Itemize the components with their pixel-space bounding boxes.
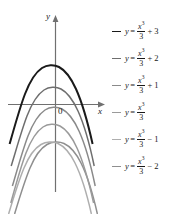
legend-item[interactable]: y = x3 3 + 1 bbox=[112, 72, 196, 99]
numerator-exponent: 3 bbox=[142, 20, 145, 26]
fraction: x3 3 bbox=[137, 77, 145, 95]
origin-label: 0 bbox=[58, 107, 63, 116]
cubic-family-figure: y x 0 y = x3 3 + 3 y = x3 bbox=[0, 0, 196, 214]
legend-constant-term: + 2 bbox=[147, 54, 158, 63]
legend-equals-sign: = bbox=[130, 162, 135, 171]
fraction-numerator: x3 bbox=[137, 158, 145, 167]
legend-equals-sign: = bbox=[130, 108, 135, 117]
curve-c-1 bbox=[12, 107, 95, 186]
legend-equation: y = x3 3 + 3 bbox=[125, 23, 159, 41]
fraction: x3 3 bbox=[137, 23, 145, 41]
fraction-denominator: 3 bbox=[138, 86, 144, 95]
legend-item[interactable]: y = x3 3 − 1 bbox=[112, 126, 196, 153]
legend-equals-sign: = bbox=[130, 27, 135, 36]
fraction: x3 3 bbox=[137, 131, 145, 149]
fraction: x3 3 bbox=[137, 104, 145, 122]
legend-dash-icon bbox=[112, 58, 121, 59]
fraction-numerator: x3 bbox=[137, 50, 145, 59]
legend-equals-sign: = bbox=[130, 135, 135, 144]
numerator-exponent: 3 bbox=[142, 128, 145, 134]
legend-dash-icon bbox=[112, 166, 121, 167]
legend-y-symbol: y bbox=[125, 135, 129, 144]
legend-y-symbol: y bbox=[125, 81, 129, 90]
plot-area: y x 0 bbox=[0, 0, 112, 214]
x-axis-label: x bbox=[98, 107, 102, 116]
legend-constant-term: − 2 bbox=[147, 162, 158, 171]
legend-item[interactable]: y = x3 3 + 3 bbox=[112, 18, 196, 45]
legend-equals-sign: = bbox=[130, 81, 135, 90]
legend-dash-icon bbox=[112, 112, 121, 113]
legend-item[interactable]: y = x3 3 bbox=[112, 99, 196, 126]
legend-item[interactable]: y = x3 3 − 2 bbox=[112, 153, 196, 180]
legend-y-symbol: y bbox=[125, 108, 129, 117]
legend-dash-icon bbox=[112, 85, 121, 86]
legend-dash-icon bbox=[112, 139, 121, 140]
fraction: x3 3 bbox=[137, 50, 145, 68]
fraction-numerator: x3 bbox=[137, 131, 145, 140]
fraction-denominator: 3 bbox=[138, 113, 144, 122]
numerator-exponent: 3 bbox=[142, 47, 145, 53]
legend-equation: y = x3 3 + 1 bbox=[125, 77, 159, 95]
fraction: x3 3 bbox=[137, 158, 145, 176]
y-axis-label: y bbox=[46, 12, 50, 21]
fraction-denominator: 3 bbox=[138, 167, 144, 176]
y-axis bbox=[53, 15, 59, 192]
legend-equation: y = x3 3 − 2 bbox=[125, 158, 159, 176]
legend-constant-term: + 1 bbox=[147, 81, 158, 90]
legend-constant-term: + 3 bbox=[147, 27, 158, 36]
fraction-numerator: x3 bbox=[137, 77, 145, 86]
legend-item[interactable]: y = x3 3 + 2 bbox=[112, 45, 196, 72]
legend-dash-icon bbox=[112, 31, 121, 32]
numerator-exponent: 3 bbox=[142, 101, 145, 107]
legend-equation: y = x3 3 − 1 bbox=[125, 131, 159, 149]
fraction-denominator: 3 bbox=[138, 59, 144, 68]
legend-constant-term: − 1 bbox=[147, 135, 158, 144]
fraction-denominator: 3 bbox=[138, 32, 144, 41]
legend-equation: y = x3 3 + 2 bbox=[125, 50, 159, 68]
numerator-exponent: 3 bbox=[142, 74, 145, 80]
fraction-numerator: x3 bbox=[137, 23, 145, 32]
legend-y-symbol: y bbox=[125, 27, 129, 36]
legend-y-symbol: y bbox=[125, 162, 129, 171]
legend-equation: y = x3 3 bbox=[125, 104, 147, 122]
legend: y = x3 3 + 3 y = x3 3 + 2 bbox=[112, 0, 196, 214]
numerator-exponent: 3 bbox=[142, 155, 145, 161]
legend-y-symbol: y bbox=[125, 54, 129, 63]
fraction-denominator: 3 bbox=[138, 140, 144, 149]
legend-equals-sign: = bbox=[130, 54, 135, 63]
fraction-numerator: x3 bbox=[137, 104, 145, 113]
plot-svg bbox=[0, 0, 112, 214]
